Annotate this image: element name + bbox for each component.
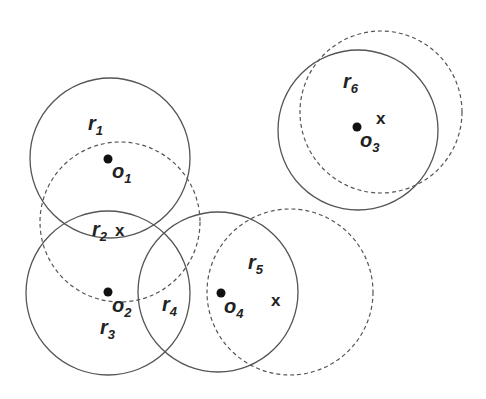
center-label-o3: o3 (360, 129, 380, 155)
region-label-r5: r5 (248, 251, 264, 277)
region-label-r3: r3 (100, 316, 116, 342)
x-mark-2: x (271, 291, 281, 310)
region-label-r1: r1 (88, 112, 103, 138)
dashed-circle-d-r5 (207, 209, 373, 375)
circle-diagram: o1o2o4o3r1r2r3r4r5r6xxx (0, 0, 486, 399)
region-label-r4: r4 (162, 293, 178, 319)
center-label-o4: o4 (224, 295, 244, 321)
x-mark-3: x (376, 109, 386, 128)
region-label-r2: r2 (92, 218, 108, 244)
center-label-o1: o1 (112, 160, 131, 186)
solid-circles (26, 50, 438, 375)
center-points (104, 123, 362, 298)
center-label-o2: o2 (112, 294, 132, 320)
region-label-r6: r6 (343, 70, 359, 96)
x-mark-1: x (115, 221, 125, 240)
